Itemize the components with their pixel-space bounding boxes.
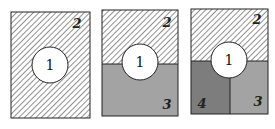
panel-3: 1 2 3 4 bbox=[191, 9, 268, 114]
label-3: 3 bbox=[253, 94, 262, 109]
label-1: 1 bbox=[136, 54, 145, 70]
panel-1: 1 2 bbox=[11, 12, 90, 118]
label-2: 2 bbox=[161, 15, 171, 30]
label-1: 1 bbox=[46, 57, 55, 73]
label-1: 1 bbox=[225, 52, 234, 68]
label-4: 4 bbox=[197, 96, 206, 111]
panel-2: 1 2 3 bbox=[102, 10, 178, 116]
label-2: 2 bbox=[251, 12, 261, 27]
region-diagram: 1 2 1 2 3 1 2 3 4 bbox=[0, 0, 275, 129]
label-2: 2 bbox=[71, 16, 81, 31]
label-3: 3 bbox=[162, 97, 171, 112]
